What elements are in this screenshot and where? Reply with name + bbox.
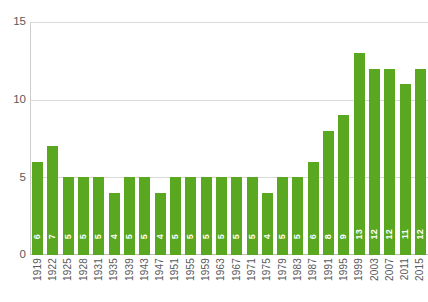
x-label-slot: 1939 [122,258,137,302]
bar[interactable]: 5 [216,177,227,255]
bar[interactable]: 11 [400,84,411,255]
x-axis-tick-label: 1955 [186,258,196,281]
x-label-slot: 1959 [198,258,213,302]
bar-value-label: 12 [416,229,425,239]
bar-slot: 5 [76,22,91,255]
bar[interactable]: 5 [231,177,242,255]
bar[interactable]: 5 [63,177,74,255]
x-label-slot: 1943 [137,258,152,302]
bar-value-label: 5 [202,234,211,239]
bar-value-label: 6 [33,234,42,239]
x-axis-tick-label: 2011 [400,258,410,280]
x-axis-tick-label: 2003 [370,258,380,281]
bar[interactable]: 5 [93,177,104,255]
bar[interactable]: 12 [384,69,395,255]
bar-slot: 8 [321,22,336,255]
bar-chart: 15 10 5 0 675554554555555455689131212111… [0,0,428,302]
bar[interactable]: 5 [277,177,288,255]
bar[interactable]: 8 [323,131,334,255]
bar[interactable]: 12 [369,69,380,255]
bar-slot: 11 [398,22,413,255]
bar-slot: 4 [153,22,168,255]
x-label-slot: 1999 [352,258,367,302]
bar-value-label: 4 [156,234,165,239]
bar-slot: 5 [275,22,290,255]
bar-value-label: 5 [186,234,195,239]
x-label-slot: 2015 [413,258,428,302]
bar-slot: 7 [45,22,60,255]
bar-value-label: 5 [94,234,103,239]
y-tick-label-15: 15 [2,16,26,28]
bar-slot: 12 [367,22,382,255]
plot-area: 6755545545555554556891312121112 [30,22,428,255]
bar-value-label: 5 [79,234,88,239]
bar[interactable]: 7 [47,146,58,255]
x-label-slot: 1971 [244,258,259,302]
bar-value-label: 12 [385,229,394,239]
x-label-slot: 1975 [260,258,275,302]
x-label-slot: 1983 [290,258,305,302]
bar-slot: 5 [61,22,76,255]
x-label-slot: 1979 [275,258,290,302]
x-axis-tick-label: 1967 [232,258,242,281]
bar[interactable]: 5 [247,177,258,255]
bar-slot: 5 [214,22,229,255]
x-label-slot: 1935 [107,258,122,302]
bar[interactable]: 6 [308,162,319,255]
bar-value-label: 5 [293,234,302,239]
x-axis-tick-label: 2007 [385,258,395,281]
y-tick-label-10: 10 [2,95,26,107]
bar[interactable]: 4 [155,193,166,255]
x-axis-tick-label: 1991 [324,258,334,281]
bar[interactable]: 13 [354,53,365,255]
x-axis-tick-label: 1983 [293,258,303,281]
x-label-slot: 1947 [153,258,168,302]
bar[interactable]: 5 [201,177,212,255]
bar-value-label: 5 [248,234,257,239]
bar-slot: 4 [260,22,275,255]
x-axis-tick-label: 1999 [354,258,364,281]
bar-slot: 5 [91,22,106,255]
x-axis-tick-label: 1922 [48,258,58,281]
bar-value-label: 12 [370,229,379,239]
bar-value-label: 13 [355,229,364,239]
bar-value-label: 5 [125,234,134,239]
bar[interactable]: 5 [170,177,181,255]
x-axis-tick-label: 1987 [308,258,318,281]
x-axis-tick-label: 1947 [155,258,165,281]
bar-value-label: 5 [64,234,73,239]
x-axis-tick-label: 1919 [33,258,43,281]
x-axis-tick-label: 1935 [109,258,119,281]
bar[interactable]: 5 [185,177,196,255]
bar-slot: 5 [198,22,213,255]
bar-slot: 5 [168,22,183,255]
x-axis-tick-label: 1939 [125,258,135,281]
x-label-slot: 1951 [168,258,183,302]
bar[interactable]: 6 [32,162,43,255]
bar[interactable]: 4 [262,193,273,255]
bar-value-label: 6 [309,234,318,239]
x-label-slot: 1928 [76,258,91,302]
bar-series: 6755545545555554556891312121112 [30,22,428,255]
bar[interactable]: 5 [124,177,135,255]
bar[interactable]: 12 [415,69,426,255]
bar-value-label: 7 [48,234,57,239]
x-axis-tick-label: 2015 [415,258,425,281]
x-axis-labels: 1919192219251928193119351939194319471951… [30,258,428,302]
bar-value-label: 11 [401,229,410,239]
bar-value-label: 8 [324,234,333,239]
x-axis-tick-label: 1971 [247,258,257,281]
bar-slot: 5 [137,22,152,255]
x-axis-tick-label: 1995 [339,258,349,281]
bar[interactable]: 5 [78,177,89,255]
x-label-slot: 1963 [214,258,229,302]
bar-slot: 12 [413,22,428,255]
bar[interactable]: 5 [292,177,303,255]
bar[interactable]: 5 [139,177,150,255]
bar[interactable]: 4 [109,193,120,255]
bar-slot: 5 [290,22,305,255]
x-axis-tick-label: 1925 [63,258,73,281]
bar-slot: 13 [352,22,367,255]
y-axis-labels: 15 10 5 0 [0,0,26,302]
bar[interactable]: 9 [338,115,349,255]
